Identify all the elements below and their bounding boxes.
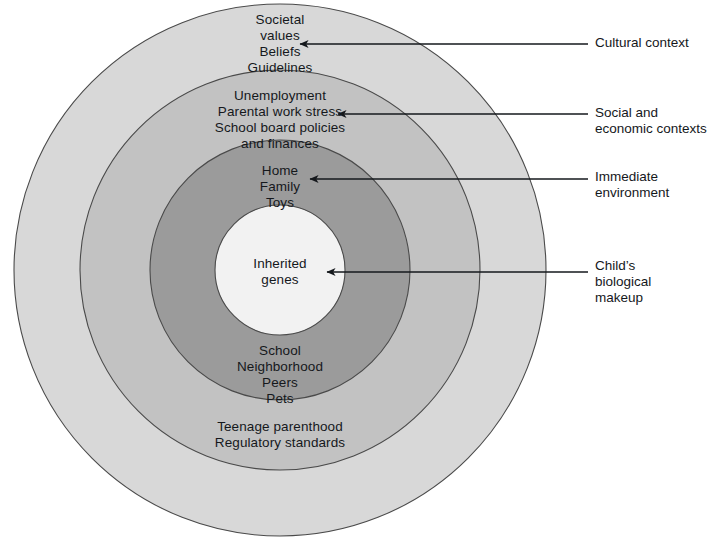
ring-label-line: Pets (190, 391, 370, 407)
callout-label-cultural-context: Cultural context (595, 35, 689, 51)
ring-label-line: genes (200, 272, 360, 288)
callout-line: environment (595, 185, 669, 201)
ring-label-line: Teenage parenthood (160, 419, 400, 435)
callout-line: makeup (595, 290, 651, 306)
callout-line: Cultural context (595, 35, 689, 51)
callout-line: Social and (595, 105, 707, 121)
callout-label-immediate-environment: Immediate environment (595, 169, 669, 201)
ring-label-line: School (190, 343, 370, 359)
ring-label-line: Inherited (200, 256, 360, 272)
ring-label-immediate-environment-lower: School Neighborhood Peers Pets (190, 343, 370, 407)
ring-label-immediate-environment: Home Family Toys (190, 163, 370, 211)
ring-label-line: Family (190, 179, 370, 195)
callout-line: economic contexts (595, 121, 707, 137)
ring-label-line: and finances (160, 136, 400, 152)
ring-label-line: Unemployment (160, 88, 400, 104)
callout-line: Child’s (595, 258, 651, 274)
ring-label-line: Peers (190, 375, 370, 391)
ring-label-line: Parental work stress (160, 104, 400, 120)
ring-label-line: Societal (180, 12, 380, 28)
ring-label-line: values (180, 28, 380, 44)
ring-label-social-economic-contexts: Unemployment Parental work stress School… (160, 88, 400, 152)
ring-label-line: Toys (190, 195, 370, 211)
ring-label-line: Neighborhood (190, 359, 370, 375)
ring-label-line: School board policies (160, 120, 400, 136)
ring-label-line: Guidelines (180, 60, 380, 76)
ring-label-line: Home (190, 163, 370, 179)
callout-line: biological (595, 274, 651, 290)
ring-label-line: Beliefs (180, 44, 380, 60)
callout-line: Immediate (595, 169, 669, 185)
callout-label-social-and-economic-contexts: Social and economic contexts (595, 105, 707, 137)
ring-label-social-economic-contexts-lower: Teenage parenthood Regulatory standards (160, 419, 400, 451)
ring-label-cultural-context: Societal values Beliefs Guidelines (180, 12, 380, 76)
callout-label-childs-biological-makeup: Child’s biological makeup (595, 258, 651, 307)
ring-label-line: Regulatory standards (160, 435, 400, 451)
ring-label-inherited-genes: Inherited genes (200, 256, 360, 288)
